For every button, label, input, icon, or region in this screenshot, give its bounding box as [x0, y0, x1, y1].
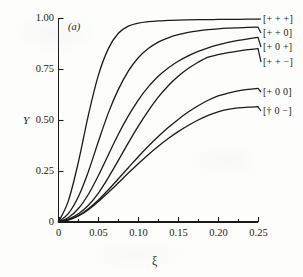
y-axis-title: Y [23, 115, 29, 126]
axis-ticks [59, 19, 259, 223]
series-label-plus-plus-zero: [+ + 0] [263, 28, 292, 38]
curve-0 [59, 27, 259, 222]
series-label-plus-zero-minus: [† 0 −] [263, 106, 292, 116]
series-label-plus-zero-plus: [+ 0 +] [263, 42, 292, 52]
curve- [59, 49, 259, 222]
y-tick-label-1: 1.00 [30, 13, 54, 24]
x-tick-label-015: 0.15 [168, 228, 189, 239]
y-tick-label-025: 0.25 [30, 166, 54, 177]
leader-line-3 [258, 49, 261, 62]
leader-line-2 [258, 37, 261, 47]
x-axis-title: ξ [152, 255, 157, 267]
label-leader-lines [258, 19, 261, 111]
x-tick-label-005: 0.05 [88, 228, 109, 239]
curve-0 [59, 37, 259, 222]
series-label-plus-zero-zero: [+ 0 0] [263, 87, 292, 97]
x-tick-label-010: 0.10 [128, 228, 149, 239]
leader-line-1 [258, 27, 261, 33]
figure-panel: (a) Y ξ 1.00 0.75 0.50 0.25 0 0 0.05 0.1… [0, 0, 303, 277]
curve-0-0 [59, 88, 259, 222]
leader-line-5 [258, 107, 261, 111]
y-tick-label-075: 0.75 [30, 64, 54, 75]
y-tick-label-050: 0.50 [30, 115, 54, 126]
data-curves [59, 19, 259, 222]
panel-label: (a) [68, 22, 80, 33]
x-tick-label-020: 0.20 [208, 228, 229, 239]
x-tick-label-0: 0 [48, 228, 69, 239]
series-label-plus-plus-minus: [+ + −] [263, 57, 293, 67]
x-tick-label-025: 0.25 [248, 228, 269, 239]
leader-line-4 [258, 88, 261, 92]
series-label-plus-plus-plus: [+ + +] [263, 14, 293, 24]
axis-lines [59, 18, 259, 222]
curve- [59, 19, 259, 222]
y-tick-label-0: 0 [30, 217, 54, 228]
